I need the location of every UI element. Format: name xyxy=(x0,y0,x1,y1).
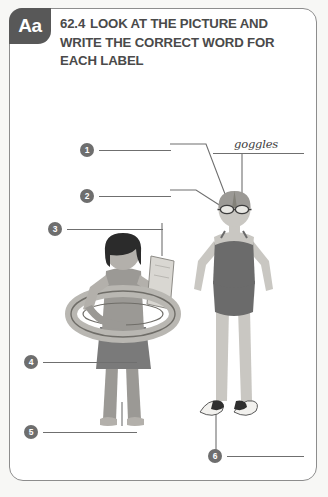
flippers xyxy=(200,401,257,416)
label-marker-4[interactable]: 4 xyxy=(24,355,38,369)
worksheet-card: Aa 62.4LOOK AT THE PICTURE AND WRITE THE… xyxy=(9,8,317,481)
label-marker-1[interactable]: 1 xyxy=(80,143,94,157)
illustration-stage xyxy=(10,9,318,482)
girl-right-foot xyxy=(127,417,144,426)
swimmer-swimsuit xyxy=(213,236,255,288)
swimmer-figure xyxy=(194,191,273,415)
label-marker-5[interactable]: 5 xyxy=(24,425,38,439)
answer-line-4[interactable] xyxy=(43,362,137,363)
example-answer-goggles: goggles xyxy=(234,137,278,151)
label-marker-2[interactable]: 2 xyxy=(80,189,94,203)
answer-line-3[interactable] xyxy=(67,229,163,230)
swimmer-left-leg xyxy=(216,309,229,401)
picture-illustration xyxy=(10,9,318,482)
swimmer-right-leg xyxy=(238,309,252,401)
label-marker-3[interactable]: 3 xyxy=(48,222,62,236)
girl-left-foot xyxy=(100,417,117,426)
answer-line-5[interactable] xyxy=(43,432,137,433)
answer-line-6[interactable] xyxy=(227,456,304,457)
answer-line-2[interactable] xyxy=(99,196,171,197)
answer-line-1[interactable] xyxy=(99,150,171,151)
label-marker-6[interactable]: 6 xyxy=(208,449,222,463)
leader-line-1 xyxy=(170,144,225,194)
girl-figure xyxy=(71,233,175,426)
answer-line-goggles[interactable] xyxy=(213,153,304,154)
girl-left-leg xyxy=(103,366,118,421)
girl-right-leg xyxy=(126,366,141,421)
leader-line-2 xyxy=(170,190,224,208)
